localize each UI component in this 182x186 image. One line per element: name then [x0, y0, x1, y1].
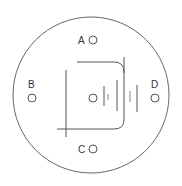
terminal-c-hole — [89, 145, 97, 153]
terminal-b: B — [28, 79, 36, 102]
terminal-a-hole — [89, 36, 97, 44]
diagram-canvas: A B C D — [0, 0, 182, 186]
terminal-c-label: C — [78, 144, 85, 155]
terminal-d: D — [151, 79, 159, 102]
terminal-c: C — [78, 144, 97, 155]
terminal-a-label: A — [78, 35, 85, 46]
terminal-d-hole — [151, 94, 159, 102]
terminal-d-label: D — [151, 79, 158, 90]
center-terminal-hole — [89, 94, 97, 102]
terminal-b-hole — [28, 94, 36, 102]
terminal-b-label: B — [28, 79, 35, 90]
terminal-a: A — [78, 35, 97, 46]
